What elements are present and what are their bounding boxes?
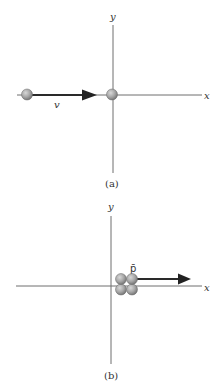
caption-a: (a)	[105, 178, 119, 189]
momentum-label: p̄	[130, 263, 136, 274]
moving-particle-icon	[22, 89, 33, 100]
cluster-particle-icon	[127, 284, 138, 295]
particle-cluster	[116, 274, 138, 296]
x-axis-label-b: x	[204, 282, 210, 293]
cluster-particle-icon	[127, 274, 138, 285]
panel-b: y x p̄ (b)	[16, 201, 210, 381]
collision-diagram: y x v (a) y x p̄ (b)	[0, 0, 222, 384]
y-axis-label-a: y	[109, 11, 116, 22]
cluster-particle-icon	[116, 284, 127, 295]
cluster-particle-icon	[116, 274, 127, 285]
momentum-arrow	[136, 274, 191, 285]
y-axis-label-b: y	[107, 201, 114, 212]
target-particle-icon	[107, 89, 118, 100]
velocity-arrow	[31, 90, 97, 101]
caption-b: (b)	[104, 370, 118, 381]
panel-a: y x v (a)	[17, 11, 210, 189]
velocity-label: v	[54, 99, 60, 110]
x-axis-label-a: x	[204, 90, 210, 101]
